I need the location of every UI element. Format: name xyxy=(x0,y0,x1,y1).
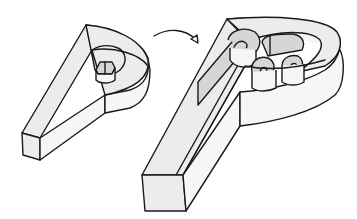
arrow-icon xyxy=(154,30,198,43)
large-letter-p xyxy=(142,17,343,211)
small-letter-p xyxy=(22,25,150,160)
